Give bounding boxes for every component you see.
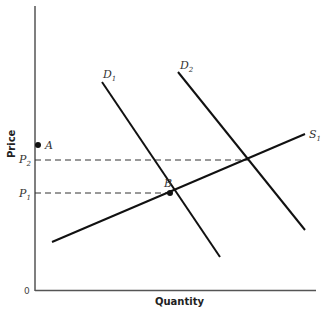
supply-curve-s1	[52, 134, 305, 242]
y-axis-title: Price	[6, 129, 17, 158]
label-d1: D1	[102, 68, 116, 83]
point-b	[167, 190, 173, 196]
origin-label: 0	[24, 286, 30, 296]
demand-curve-d1	[102, 82, 220, 257]
demand-curve-d2	[178, 72, 305, 230]
label-d2: D2	[179, 59, 194, 74]
label-s1: S1	[309, 128, 321, 143]
label-p1: P1	[18, 187, 31, 202]
label-b: B	[163, 177, 172, 190]
x-axis-title: Quantity	[155, 296, 204, 307]
point-a	[35, 142, 41, 148]
supply-demand-diagram: A B D1 D2 S1 P2 P1 0 Quantity Price	[0, 0, 324, 310]
label-a: A	[44, 139, 53, 152]
label-p2: P2	[18, 153, 31, 168]
